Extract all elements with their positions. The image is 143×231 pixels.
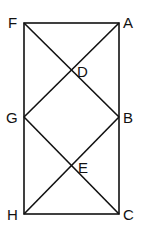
label-D: D	[77, 63, 88, 80]
label-F: F	[8, 14, 17, 31]
label-H: H	[7, 206, 18, 223]
rectangle-FACH	[24, 23, 119, 214]
label-G: G	[6, 109, 18, 126]
label-B: B	[123, 109, 133, 126]
geometry-diagram: F A D G B E H C	[0, 0, 143, 231]
label-A: A	[123, 14, 133, 31]
label-C: C	[123, 206, 134, 223]
label-E: E	[78, 159, 88, 176]
